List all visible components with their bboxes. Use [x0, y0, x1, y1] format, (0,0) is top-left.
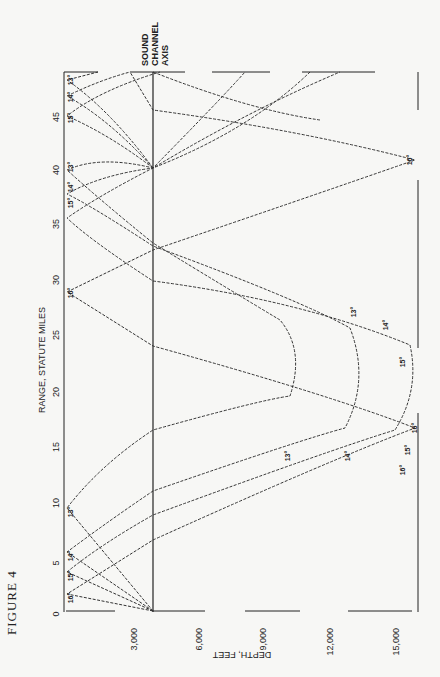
ray-label: 13° [67, 507, 74, 518]
range-tick-labels: 0 5 10 15 20 25 30 35 40 45 [51, 112, 61, 617]
figure-caption: FIGURE 4 [4, 570, 19, 635]
channel-label: CHANNEL [150, 21, 160, 66]
ray-label: 14° [67, 551, 74, 562]
ray-label: 16° [411, 423, 418, 434]
ray-label: 15° [67, 113, 74, 124]
ray-13deg [67, 72, 340, 611]
ray-label: 14° [344, 451, 351, 462]
ray-path-chart: 0 5 10 15 20 25 30 35 40 45 RANGE, STATU… [0, 0, 440, 677]
range-tick-20: 20 [51, 387, 61, 397]
range-tick-15: 15 [51, 442, 61, 452]
sound-label: SOUND [140, 33, 150, 66]
depth-tick-6000: 6,000 [194, 628, 204, 651]
ray-14deg [67, 72, 359, 611]
ray-label: 15° [67, 571, 74, 582]
ray-label: 13° [67, 162, 74, 173]
depth-tick-12000: 12,000 [325, 628, 335, 656]
range-tick-40: 40 [51, 165, 61, 175]
ray-label: 16° [67, 288, 74, 299]
range-axis-title: RANGE, STATUTE MILES [37, 307, 47, 413]
ray-label: 14° [67, 182, 74, 193]
range-tick-30: 30 [51, 275, 61, 285]
depth-tick-15000: 15,000 [391, 628, 401, 656]
axis-label: AXIS [160, 45, 170, 66]
ray-paths [67, 72, 415, 611]
range-tick-0: 0 [51, 611, 61, 616]
ray-label: 14° [382, 320, 389, 331]
ray-label: 16° [406, 155, 413, 166]
sound-channel-axis-label: SOUND CHANNEL AXIS [140, 21, 170, 66]
range-tick-25: 25 [51, 330, 61, 340]
depth-tick-9000: 9,000 [258, 628, 268, 651]
ray-label: 13° [284, 451, 291, 462]
range-tick-10: 10 [51, 498, 61, 508]
ray-16deg [67, 72, 415, 611]
ray-label: 16° [399, 465, 406, 476]
range-tick-45: 45 [51, 112, 61, 122]
ray-angle-labels: 16° 15° 14° 13° 13° 14° 15° 16° 16° 13° … [67, 75, 418, 604]
ray-label: 14° [67, 92, 74, 103]
figure-container: 0 5 10 15 20 25 30 35 40 45 RANGE, STATU… [0, 0, 440, 677]
range-tick-5: 5 [51, 560, 61, 565]
range-tick-35: 35 [51, 219, 61, 229]
ray-14deg-upper [67, 72, 153, 168]
ray-15deg-upper [67, 72, 160, 168]
ray-label: 16° [67, 593, 74, 604]
ray-15deg [67, 72, 413, 611]
ray-downgoing-top [153, 72, 320, 120]
depth-tick-3000: 3,000 [129, 628, 139, 651]
ray-label: 13° [350, 307, 357, 318]
ray-label: 13° [67, 75, 74, 86]
ray-label: 15° [404, 445, 411, 456]
ray-label: 15° [67, 198, 74, 209]
ray-label: 15° [399, 357, 406, 368]
depth-axis-title: DEPTH, FEET [212, 650, 271, 660]
